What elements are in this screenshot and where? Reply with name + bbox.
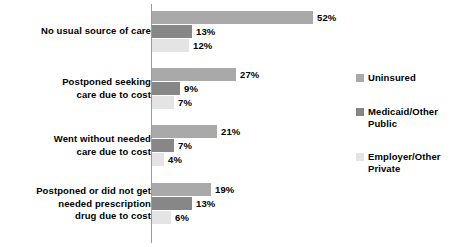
bar[interactable]	[152, 82, 180, 95]
bar-value-label: 27%	[236, 68, 259, 81]
category-label: Postponed seeking care due to cost	[1, 76, 151, 101]
bar-row[interactable]: 12%	[152, 39, 340, 53]
bar[interactable]	[152, 125, 217, 138]
bar[interactable]	[152, 211, 171, 224]
bar-group: Postponed or did not get needed prescrip…	[0, 183, 340, 225]
bar[interactable]	[152, 139, 174, 152]
legend-swatch-icon	[356, 108, 364, 116]
bar-row[interactable]: 7%	[152, 139, 340, 153]
legend-item[interactable]: Employer/Other Private	[356, 151, 461, 174]
bar[interactable]	[152, 11, 313, 24]
category-label: Postponed or did not get needed prescrip…	[1, 185, 151, 223]
legend-label: Uninsured	[368, 72, 461, 84]
bar-group: No usual source of care52%13%12%	[0, 11, 340, 53]
bar-row[interactable]: 6%	[152, 211, 340, 225]
bar-value-label: 7%	[174, 96, 192, 109]
bar-value-label: 13%	[192, 197, 215, 210]
bar-value-label: 13%	[192, 25, 215, 38]
bar-group: Postponed seeking care due to cost27%9%7…	[0, 68, 340, 110]
plot-area: No usual source of care52%13%12%Postpone…	[0, 0, 340, 247]
bar-row[interactable]: 21%	[152, 125, 340, 139]
category-label: Went without needed care due to cost	[1, 133, 151, 158]
bar[interactable]	[152, 153, 164, 166]
bar-row[interactable]: 13%	[152, 25, 340, 39]
bar-row[interactable]: 13%	[152, 197, 340, 211]
legend-item[interactable]: Uninsured	[356, 72, 461, 84]
bar-row-stack: 19%13%6%	[152, 183, 340, 225]
legend-label: Employer/Other Private	[368, 151, 461, 174]
bar[interactable]	[152, 183, 211, 196]
bar-row-stack: 21%7%4%	[152, 125, 340, 167]
bar-value-label: 9%	[180, 82, 198, 95]
chart-legend: UninsuredMedicaid/Other PublicEmployer/O…	[356, 72, 461, 196]
bar-row[interactable]: 7%	[152, 96, 340, 110]
bar-row[interactable]: 27%	[152, 68, 340, 82]
legend-label: Medicaid/Other Public	[368, 106, 461, 129]
legend-swatch-icon	[356, 74, 364, 82]
bar-row[interactable]: 19%	[152, 183, 340, 197]
bar-row-stack: 27%9%7%	[152, 68, 340, 110]
bar-row[interactable]: 4%	[152, 153, 340, 167]
bar-value-label: 7%	[174, 139, 192, 152]
bar-chart: No usual source of care52%13%12%Postpone…	[0, 0, 461, 247]
bar-value-label: 4%	[164, 153, 182, 166]
bar-value-label: 52%	[313, 11, 336, 24]
bar-row[interactable]: 9%	[152, 82, 340, 96]
bar-value-label: 12%	[189, 39, 212, 52]
bar-value-label: 21%	[217, 125, 240, 138]
legend-item[interactable]: Medicaid/Other Public	[356, 106, 461, 129]
bar-value-label: 6%	[171, 211, 189, 224]
bar[interactable]	[152, 39, 189, 52]
bar[interactable]	[152, 68, 236, 81]
bar-row-stack: 52%13%12%	[152, 11, 340, 53]
category-label: No usual source of care	[1, 25, 151, 38]
bar[interactable]	[152, 197, 192, 210]
legend-swatch-icon	[356, 153, 364, 161]
bar-group: Went without needed care due to cost21%7…	[0, 125, 340, 167]
bar[interactable]	[152, 25, 192, 38]
bar-row[interactable]: 52%	[152, 11, 340, 25]
bar-value-label: 19%	[211, 183, 234, 196]
bar[interactable]	[152, 96, 174, 109]
